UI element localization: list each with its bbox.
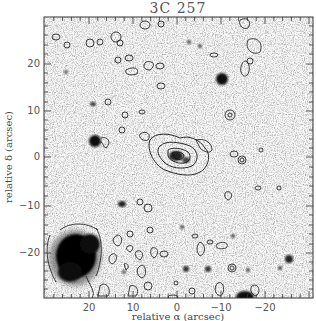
x-tick-label: −20: [254, 302, 275, 313]
y-tick-label: 10: [27, 105, 40, 116]
x-axis-label: relative α (arcsec): [132, 311, 225, 321]
image-area: [44, 17, 313, 303]
chart-plot: 20 10 0 −10 −20 20 10 0 −10 −20 relative…: [0, 0, 316, 321]
x-tick-label: 20: [83, 302, 96, 313]
y-tick-labels: 20 10 0 −10 −20: [19, 58, 40, 258]
y-tick-label: −10: [19, 200, 40, 211]
y-axis-label: relative δ (arcsec): [3, 111, 14, 203]
y-tick-label: 0: [34, 151, 40, 162]
y-tick-label: −20: [19, 247, 40, 258]
y-tick-label: 20: [27, 58, 40, 69]
